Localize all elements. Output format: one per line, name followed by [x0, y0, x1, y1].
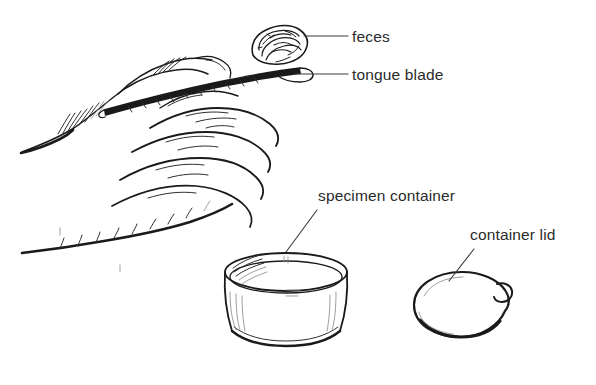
figure-root: feces tongue blade specimen container co… — [0, 0, 596, 385]
label-specimen-container: specimen container — [318, 187, 455, 204]
label-container-lid: container lid — [470, 226, 556, 243]
illustration-svg: feces tongue blade specimen container co… — [0, 0, 596, 385]
label-tongue-blade: tongue blade — [352, 66, 443, 83]
label-feces: feces — [352, 28, 390, 45]
